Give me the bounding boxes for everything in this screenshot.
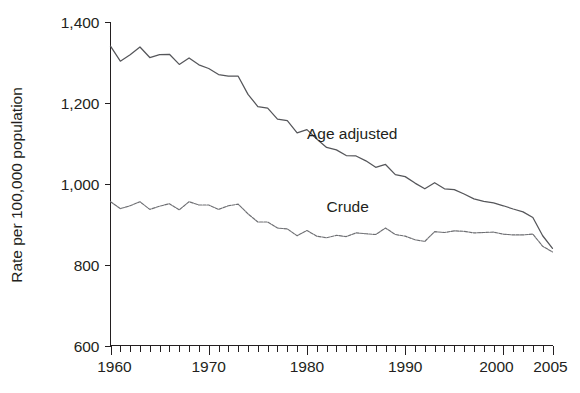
series-line-age-adjusted bbox=[111, 46, 553, 248]
x-axis-tick-label: 1990 bbox=[388, 358, 423, 375]
y-axis-tick-label: 800 bbox=[74, 257, 100, 274]
series-annotation-age-adjusted: Age adjusted bbox=[307, 125, 398, 142]
y-axis-tick-label: 600 bbox=[74, 338, 100, 355]
x-axis-ticks bbox=[112, 346, 554, 355]
y-axis-tick-labels: 6008001,0001,2001,400 bbox=[61, 14, 100, 355]
y-axis-ticks bbox=[105, 23, 111, 347]
x-axis-tick-label: 2000 bbox=[479, 358, 514, 375]
x-axis-tick-label: 1980 bbox=[290, 358, 325, 375]
x-axis-tick-label: 1970 bbox=[191, 358, 226, 375]
y-axis-tick-label: 1,400 bbox=[61, 14, 100, 31]
x-axis-tick-label: 1960 bbox=[97, 358, 132, 375]
line-chart: Rate per 100,000 population 6008001,0001… bbox=[0, 0, 580, 393]
series-annotation-crude: Crude bbox=[327, 198, 369, 215]
y-axis-tick-label: 1,000 bbox=[61, 176, 100, 193]
chart-container: Rate per 100,000 population 6008001,0001… bbox=[0, 0, 580, 393]
y-axis-tick-label: 1,200 bbox=[61, 95, 100, 112]
x-axis-tick-labels: 196019701980199020002005 bbox=[97, 358, 567, 375]
y-axis-title: Rate per 100,000 population bbox=[8, 87, 25, 283]
x-axis-tick-label: 2005 bbox=[533, 358, 567, 375]
